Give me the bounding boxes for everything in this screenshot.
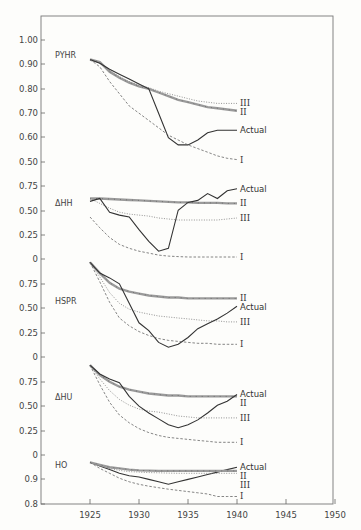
y-tick-label: 0.8	[24, 499, 38, 509]
series-actual-line	[90, 462, 237, 484]
panel-label: ΔHU	[55, 393, 72, 402]
y-tick-label: 0.9	[24, 474, 38, 484]
series-label-iii: III	[240, 413, 250, 423]
x-tick-label: 1925	[79, 510, 101, 520]
series-iii-line	[90, 365, 237, 418]
series-II-marks	[90, 365, 237, 396]
x-tick-label: 1930	[128, 510, 150, 520]
series-label-actual: Actual	[240, 302, 267, 312]
y-tick-label: 0.75	[19, 279, 38, 289]
series-label-ii: II	[240, 107, 247, 117]
y-tick-label: 0.25	[19, 328, 38, 338]
y-tick-label: 0.75	[19, 181, 38, 191]
series-actual-line	[90, 262, 237, 347]
series-label-iii: III	[240, 213, 250, 223]
x-tick-label: 1950	[324, 510, 346, 520]
series-II-line	[90, 60, 237, 111]
panel-label: PYHR	[55, 51, 77, 60]
y-tick-label: 0.60	[19, 132, 38, 142]
y-tick-label: 0	[33, 254, 38, 264]
x-tick-label: 1935	[177, 510, 199, 520]
y-tick-label: 0	[33, 352, 38, 362]
series-II-line	[90, 462, 237, 471]
panel-delta-hh: ΔHHIIIIIActualI	[55, 184, 267, 262]
series-label-i: I	[240, 155, 243, 165]
series-II-line	[90, 199, 237, 204]
chart-canvas: 1.000.900.800.700.600.500.750.500.2500.7…	[0, 0, 361, 530]
series-label-i: I	[240, 491, 243, 501]
series-label-ii: II	[240, 198, 247, 208]
series-i-line	[90, 365, 237, 442]
y-tick-label: 0.25	[19, 230, 38, 240]
series-label-actual: Actual	[240, 125, 267, 135]
series-label-i: I	[240, 252, 243, 262]
y-tick-label: 0.50	[19, 401, 38, 411]
y-tick-label: 0.50	[19, 206, 38, 216]
y-tick-label: 0.50	[19, 303, 38, 313]
series-II-line	[90, 262, 237, 298]
panel-ho: HOActualIIIIII	[55, 461, 267, 501]
x-tick-label: 1940	[226, 510, 248, 520]
series-II-marks	[90, 262, 237, 298]
series-label-i: I	[240, 339, 243, 349]
series-iii-line	[90, 262, 237, 322]
plot-frame	[41, 16, 333, 504]
y-tick-label: 0.90	[19, 59, 38, 69]
panel-delta-hu: ΔHUIIIIIActualI	[55, 365, 267, 447]
series-label-ii: II	[240, 398, 247, 408]
y-tick-label: 0.25	[19, 426, 38, 436]
panel-hspr: HSPRIIIIIActualI	[55, 262, 267, 349]
x-axis: 192519301935194019451950	[79, 499, 346, 520]
series-label-iii: III	[240, 317, 250, 327]
series-label-iii: III	[240, 480, 250, 490]
panel-label: ΔHH	[55, 199, 73, 208]
series-label-i: I	[240, 437, 243, 447]
panel-pyhr: PYHRIIIIIActualI	[55, 51, 267, 165]
series-II-line	[90, 365, 237, 396]
y-tick-label: 1.00	[19, 35, 38, 45]
panel-label: HSPR	[55, 297, 77, 306]
y-tick-label: 0.50	[19, 157, 38, 167]
series-label-actual: Actual	[240, 184, 267, 194]
y-tick-label: 0.75	[19, 377, 38, 387]
y-tick-label: 0.80	[19, 84, 38, 94]
x-tick-label: 1945	[275, 510, 297, 520]
panels: PYHRIIIIIActualIΔHHIIIIIActualIHSPRIIIII…	[55, 51, 267, 501]
y-tick-label: 0.70	[19, 108, 38, 118]
series-II-marks	[90, 60, 237, 111]
series-label-actual: Actual	[240, 389, 267, 399]
y-tick-label: 0	[33, 450, 38, 460]
series-i-line	[90, 262, 237, 344]
series-label-iii: III	[240, 98, 250, 108]
series-i-line	[90, 217, 237, 257]
series-iii-line	[90, 60, 237, 104]
panel-label: HO	[55, 461, 67, 470]
